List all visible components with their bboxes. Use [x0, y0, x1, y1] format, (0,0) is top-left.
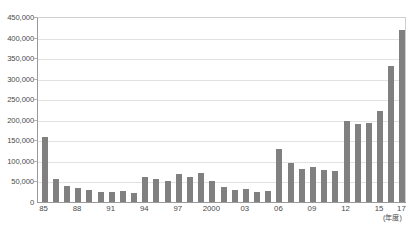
- bar: [254, 192, 260, 202]
- bar: [75, 188, 81, 202]
- chart-legend: [0, 0, 414, 7]
- bar: [131, 193, 137, 202]
- bar: [187, 177, 193, 202]
- bar: [198, 173, 204, 202]
- y-axis: 450,000400,000350,000300,000250,000200,0…: [0, 0, 34, 220]
- plot-area: [37, 17, 406, 202]
- bar: [165, 181, 171, 202]
- y-axis-tick-label: 0: [30, 198, 34, 207]
- x-axis-tick-label: 91: [106, 204, 115, 213]
- x-axis-tick-label: 09: [308, 204, 317, 213]
- y-axis-tick-label: 200,000: [7, 115, 34, 124]
- bar: [64, 186, 70, 202]
- bar: [53, 179, 59, 202]
- bar: [399, 30, 405, 202]
- bar: [366, 123, 372, 202]
- y-axis-tick-label: 150,000: [7, 136, 34, 145]
- bar: [321, 170, 327, 202]
- bar: [98, 192, 104, 202]
- bar: [243, 189, 249, 202]
- bar: [377, 111, 383, 202]
- bar: [142, 177, 148, 202]
- bar: [153, 179, 159, 202]
- bar: [109, 192, 115, 202]
- bar-series: [38, 18, 405, 202]
- bar: [310, 167, 316, 202]
- bar: [221, 187, 227, 202]
- y-axis-tick-label: 450,000: [7, 13, 34, 22]
- bar-chart: 450,000400,000350,000300,000250,000200,0…: [0, 0, 414, 237]
- x-axis-tick-label: 85: [39, 204, 48, 213]
- bar: [232, 190, 238, 202]
- x-axis-line: [37, 202, 406, 203]
- bar: [176, 174, 182, 202]
- bar: [276, 149, 282, 202]
- y-axis-tick-label: 300,000: [7, 74, 34, 83]
- y-axis-tick-label: 100,000: [7, 156, 34, 165]
- x-axis-tick-label: 06: [274, 204, 283, 213]
- bar: [332, 171, 338, 202]
- chart-footnote: [3, 229, 193, 236]
- bar: [209, 181, 215, 202]
- x-axis-unit-label: (年度): [383, 212, 402, 222]
- bar: [120, 191, 126, 202]
- bar: [344, 121, 350, 202]
- bar: [265, 191, 271, 203]
- x-axis-tick-label: 88: [73, 204, 82, 213]
- y-axis-tick-label: 250,000: [7, 95, 34, 104]
- y-axis-tick-label: 350,000: [7, 54, 34, 63]
- x-axis-tick-label: 94: [140, 204, 149, 213]
- x-axis-tick-label: 2000: [203, 204, 220, 213]
- x-axis-tick-label: 03: [241, 204, 250, 213]
- bar: [355, 124, 361, 202]
- bar: [288, 163, 294, 202]
- bar: [42, 137, 48, 202]
- x-axis-tick-label: 12: [341, 204, 350, 213]
- bar: [86, 190, 92, 202]
- y-axis-tick-label: 50,000: [11, 177, 34, 186]
- x-axis: 85889194972000030609121517: [37, 204, 406, 218]
- x-axis-tick-label: 97: [173, 204, 182, 213]
- bar: [299, 169, 305, 202]
- bar: [388, 66, 394, 202]
- y-axis-tick-label: 400,000: [7, 33, 34, 42]
